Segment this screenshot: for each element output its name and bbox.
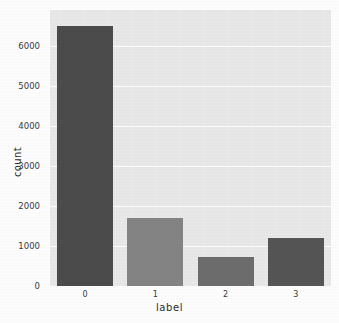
y-tick-label: 0: [35, 282, 40, 291]
y-tick-label: 2000: [18, 202, 40, 211]
x-tick-label: 2: [223, 291, 228, 299]
bar-0: [57, 26, 113, 286]
bar-2: [198, 257, 254, 286]
y-tick-label: 5000: [18, 82, 40, 91]
y-axis-tick-labels: 0100020003000400050006000: [0, 0, 46, 323]
bar-3: [268, 238, 324, 286]
y-tick-label: 6000: [18, 42, 40, 51]
x-axis-title: label: [0, 303, 339, 313]
x-tick-label: 0: [83, 291, 88, 299]
y-tick-label: 1000: [18, 242, 40, 251]
x-tick-label: 1: [153, 291, 158, 299]
x-tick-label: 3: [293, 291, 298, 299]
bar-1: [127, 218, 183, 286]
y-tick-label: 4000: [18, 122, 40, 131]
bar-chart-figure: 0100020003000400050006000 0123 label cou…: [0, 0, 339, 323]
plot-area: [50, 10, 331, 286]
y-axis-title: count: [12, 146, 23, 176]
